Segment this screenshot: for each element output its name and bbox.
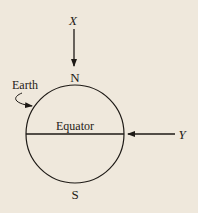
x-label: X [68, 13, 78, 28]
north-label: N [70, 70, 80, 85]
earth-diagram: X N Equator Earth Y S [0, 0, 198, 213]
equator-label: Equator [56, 119, 94, 133]
earth-pointer-arrow [16, 93, 32, 106]
y-label: Y [178, 127, 187, 142]
earth-label: Earth [12, 78, 38, 92]
south-label: S [71, 187, 78, 202]
